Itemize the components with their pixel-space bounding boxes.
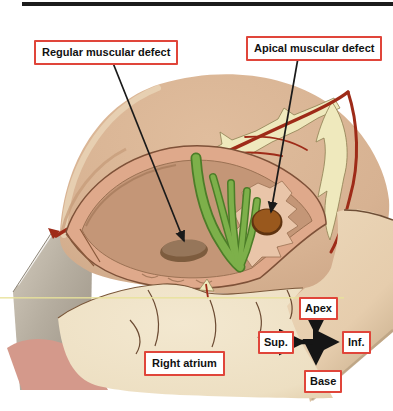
base-label: Base (304, 370, 342, 393)
apex-label: Apex (299, 297, 338, 320)
apical-defect-label: Apical muscular defect (246, 36, 382, 61)
sup-label: Sup. (258, 331, 294, 354)
top-bar (22, 2, 393, 6)
right-atrium-label: Right atrium (144, 351, 225, 376)
regular-defect-label: Regular muscular defect (34, 40, 178, 65)
apical-defect-spot (252, 209, 283, 236)
scan-line (0, 297, 344, 299)
inf-label: Inf. (342, 331, 371, 354)
figure-canvas: Regular muscular defect Apical muscular … (0, 0, 393, 411)
